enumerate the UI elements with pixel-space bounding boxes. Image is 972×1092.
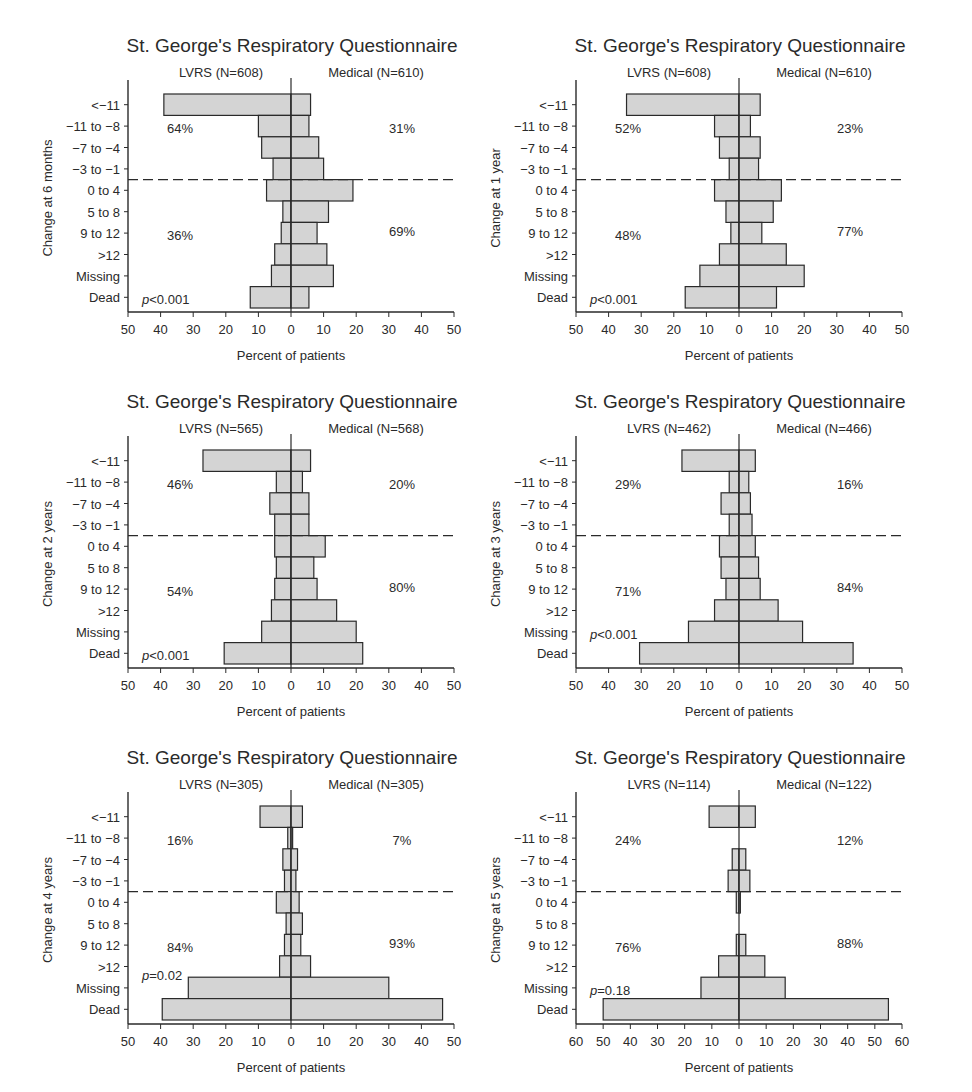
bar-lvrs — [250, 287, 291, 308]
bar-medical — [291, 201, 328, 222]
x-axis-label: Percent of patients — [685, 1060, 794, 1075]
bar-medical — [739, 265, 804, 286]
bar-medical — [739, 536, 755, 557]
category-label: Dead — [537, 646, 568, 661]
chart-panel-3-years: St. George's Respiratory QuestionnaireLV… — [478, 378, 948, 728]
x-tick-label: 40 — [414, 322, 428, 337]
category-label: 0 to 4 — [87, 895, 120, 910]
category-label: −11 to −8 — [66, 119, 120, 134]
x-tick-label: 30 — [382, 322, 396, 337]
medical-group-label: Medical (N=466) — [776, 421, 872, 436]
x-tick-label: 50 — [569, 322, 583, 337]
x-tick-label: 50 — [447, 1034, 461, 1049]
bar-lvrs — [729, 471, 739, 492]
bar-medical — [291, 600, 337, 621]
category-label: Missing — [524, 269, 568, 284]
category-label: −11 to −8 — [514, 119, 568, 134]
x-tick-label: 50 — [121, 1034, 135, 1049]
category-label: 0 to 4 — [535, 183, 568, 198]
lvrs-worse-percent: 24% — [615, 833, 641, 848]
x-tick-label: 0 — [287, 1034, 294, 1049]
x-tick-label: 50 — [121, 322, 135, 337]
category-label: >12 — [98, 248, 120, 263]
lvrs-worse-percent: 52% — [615, 121, 641, 136]
bar-lvrs — [203, 450, 291, 471]
medical-worse-percent: 16% — [837, 477, 863, 492]
bar-lvrs — [685, 287, 739, 308]
category-label: <−11 — [91, 454, 120, 469]
x-tick-label: 40 — [414, 1034, 428, 1049]
bar-lvrs — [719, 244, 739, 265]
bar-medical — [291, 849, 298, 870]
bar-medical — [739, 643, 853, 664]
bar-medical — [291, 557, 314, 578]
x-tick-label: 40 — [153, 1034, 167, 1049]
bar-lvrs — [286, 913, 291, 934]
x-tick-label: 30 — [830, 678, 844, 693]
x-tick-label: 10 — [316, 322, 330, 337]
x-tick-label: 30 — [813, 1034, 827, 1049]
x-tick-label: 30 — [634, 322, 648, 337]
category-label: 5 to 8 — [535, 205, 568, 220]
x-tick-label: 10 — [759, 1034, 773, 1049]
x-tick-label: 20 — [349, 1034, 363, 1049]
bar-medical — [739, 137, 760, 158]
bar-medical — [291, 450, 311, 471]
bar-lvrs — [682, 450, 739, 471]
category-label: 5 to 8 — [535, 917, 568, 932]
medical-better-percent: 80% — [389, 580, 415, 595]
y-axis-label: Change at 2 years — [40, 500, 55, 607]
category-label: >12 — [546, 248, 568, 263]
lvrs-group-label: LVRS (N=114) — [628, 777, 711, 792]
x-tick-label: 40 — [862, 322, 876, 337]
bar-lvrs — [271, 600, 291, 621]
bar-lvrs — [721, 557, 739, 578]
medical-group-label: Medical (N=610) — [776, 65, 872, 80]
lvrs-group-label: LVRS (N=608) — [179, 65, 263, 80]
category-label: 9 to 12 — [80, 938, 120, 953]
bar-medical — [739, 450, 755, 471]
x-tick-label: 30 — [186, 1034, 200, 1049]
medical-group-label: Medical (N=305) — [328, 777, 424, 792]
bar-medical — [291, 287, 309, 308]
bar-medical — [739, 201, 773, 222]
x-tick-label: 10 — [705, 1034, 719, 1049]
bar-lvrs — [267, 180, 291, 201]
bar-medical — [739, 934, 746, 955]
category-label: 5 to 8 — [87, 561, 120, 576]
bar-lvrs — [275, 514, 291, 535]
lvrs-better-percent: 84% — [167, 940, 193, 955]
bar-medical — [291, 180, 353, 201]
bar-medical — [739, 180, 781, 201]
bar-lvrs — [726, 201, 739, 222]
chart-title: St. George's Respiratory Questionnaire — [574, 35, 905, 56]
x-tick-label: 20 — [797, 322, 811, 337]
bar-lvrs — [275, 578, 291, 599]
chart-panel-4-years: St. George's Respiratory QuestionnaireLV… — [30, 734, 500, 1084]
bar-medical — [739, 514, 752, 535]
x-tick-label: 30 — [186, 678, 200, 693]
x-tick-label: 50 — [447, 322, 461, 337]
bar-lvrs — [164, 94, 291, 115]
bar-medical — [291, 222, 317, 243]
bar-medical — [291, 977, 389, 998]
bar-medical — [291, 244, 327, 265]
bar-medical — [291, 493, 309, 514]
category-label: Missing — [524, 625, 568, 640]
bar-lvrs — [283, 849, 291, 870]
bar-lvrs — [283, 201, 291, 222]
bar-medical — [739, 956, 765, 977]
x-tick-label: 0 — [735, 678, 742, 693]
x-tick-label: 40 — [153, 678, 167, 693]
x-tick-label: 50 — [895, 678, 909, 693]
x-tick-label: 10 — [316, 1034, 330, 1049]
bar-medical — [291, 536, 325, 557]
medical-better-percent: 69% — [389, 224, 415, 239]
x-tick-label: 50 — [121, 678, 135, 693]
category-label: −7 to −4 — [72, 853, 120, 868]
x-tick-label: 30 — [382, 1034, 396, 1049]
category-label: Dead — [89, 646, 120, 661]
x-tick-label: 40 — [840, 1034, 854, 1049]
bar-lvrs — [224, 643, 291, 664]
bar-medical — [739, 557, 759, 578]
